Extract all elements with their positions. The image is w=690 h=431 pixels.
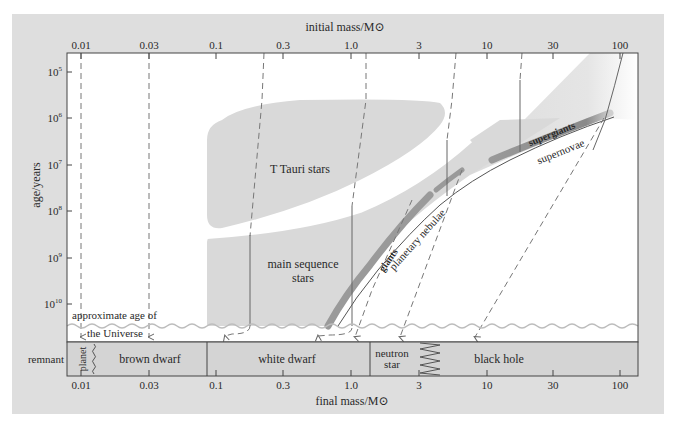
- bottom-axis-title: final mass/M⊙: [315, 394, 388, 408]
- top-tick-0.3: 0.3: [276, 39, 290, 51]
- black-hole-label: black hole: [474, 352, 524, 366]
- top-tick-0.1: 0.1: [209, 39, 223, 51]
- planet-label: planet: [77, 347, 88, 372]
- bottom-tick-30: 30: [548, 379, 560, 391]
- stellar-evolution-diagram: 0.01 0.03 0.1 0.3 1.0 3 10 30 100 initia…: [0, 0, 690, 431]
- bottom-tick-1.0: 1.0: [344, 379, 358, 391]
- universe-age-label-2: the Universe: [87, 327, 143, 339]
- bottom-tick-0.1: 0.1: [209, 379, 223, 391]
- t-tauri-label: T Tauri stars: [270, 162, 330, 176]
- main-sequence-label-2: stars: [292, 271, 314, 285]
- top-tick-100: 100: [612, 39, 629, 51]
- top-tick-0.01: 0.01: [71, 39, 90, 51]
- bottom-tick-0.3: 0.3: [276, 379, 290, 391]
- remnant-label: remnant: [28, 353, 64, 365]
- top-tick-0.03: 0.03: [139, 39, 159, 51]
- white-dwarf-label: white dwarf: [258, 352, 316, 366]
- top-tick-10: 10: [482, 39, 494, 51]
- neutron-star-label-2: star: [384, 358, 400, 370]
- brown-dwarf-label: brown dwarf: [119, 352, 181, 366]
- bottom-tick-0.01: 0.01: [71, 379, 90, 391]
- top-tick-30: 30: [548, 39, 560, 51]
- main-sequence-label-1: main sequence: [268, 257, 339, 271]
- top-tick-3: 3: [416, 39, 422, 51]
- left-axis-title: age/years: [29, 162, 43, 208]
- bottom-tick-0.03: 0.03: [139, 379, 159, 391]
- top-tick-1.0: 1.0: [344, 39, 358, 51]
- bottom-tick-100: 100: [612, 379, 629, 391]
- bottom-tick-3: 3: [416, 379, 422, 391]
- bottom-tick-10: 10: [482, 379, 494, 391]
- top-axis-title: initial mass/M⊙: [305, 20, 384, 34]
- universe-age-label-1: approximate age of: [72, 309, 157, 321]
